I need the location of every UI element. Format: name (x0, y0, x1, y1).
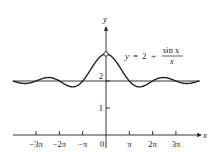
x-tick-label: −3π (29, 139, 43, 149)
x-tick-label: −2π (53, 139, 67, 149)
x-tick-label: π (127, 139, 132, 149)
y-tick-label: 2 (99, 71, 103, 81)
x-tick-label: 2π (148, 139, 157, 149)
x-tick-label: 0 (100, 139, 104, 149)
equation-label: y = 2 + sin x x (124, 45, 183, 66)
svg-text:2: 2 (142, 51, 147, 61)
y-ticks: 12 (99, 71, 110, 113)
function-plot: −3π−2π−π0π2π3π 12 x y y = 2 + sin x x (0, 0, 215, 152)
open-circle-marker (104, 52, 108, 56)
x-tick-label: −π (78, 139, 88, 149)
x-tick-label: 3π (172, 139, 181, 149)
x-axis-label: x (202, 130, 207, 140)
y-tick-label: 1 (99, 103, 103, 113)
svg-text:y: y (124, 51, 129, 61)
svg-text:=: = (133, 51, 138, 61)
svg-text:sin x: sin x (163, 45, 180, 55)
x-ticks: −3π−2π−π0π2π3π (29, 131, 180, 149)
svg-text:x: x (169, 56, 174, 66)
y-axis-label: y (102, 14, 107, 24)
svg-text:+: + (151, 51, 156, 61)
